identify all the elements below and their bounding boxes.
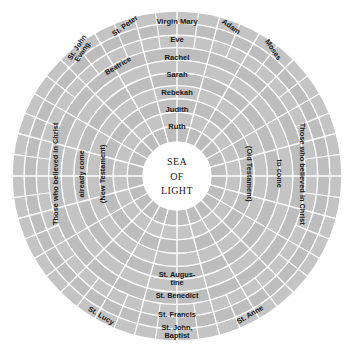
center-sea-of-light: SEA OF LIGHT xyxy=(143,155,211,199)
center-line-1: SEA xyxy=(143,155,211,170)
celestial-rose-diagram: SEA OF LIGHT Virgin Mary Eve Rachel Sara… xyxy=(0,0,351,356)
center-line-3: LIGHT xyxy=(143,184,211,199)
center-line-2: OF xyxy=(143,170,211,185)
